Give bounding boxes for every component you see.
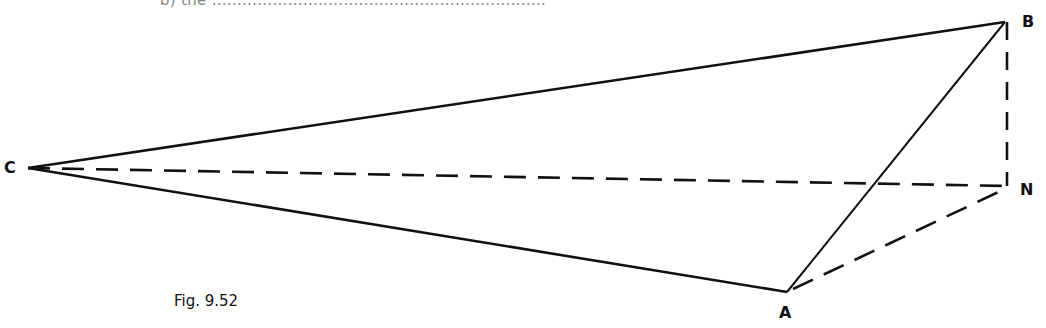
edge-ca (28, 168, 787, 292)
edge-ab (787, 22, 1005, 292)
geometry-figure: b) the .................................… (0, 0, 1046, 328)
vertex-label-b: B (1022, 14, 1034, 30)
figure-canvas (0, 0, 1046, 328)
edge-cn-dashed (28, 168, 1007, 186)
vertex-label-a: A (779, 305, 791, 321)
vertex-label-c: C (4, 160, 16, 176)
figure-caption: Fig. 9.52 (174, 292, 238, 310)
edge-an-dashed (793, 188, 1007, 289)
edge-cb (28, 22, 1005, 168)
vertex-label-n: N (1020, 182, 1033, 198)
